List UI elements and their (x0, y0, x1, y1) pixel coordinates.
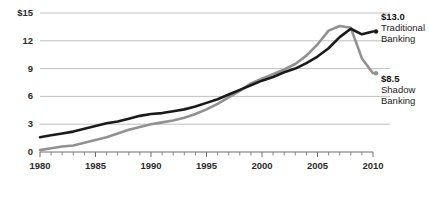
annotation-traditional-banking-label-line2: Banking (381, 34, 425, 45)
y-tick-label-0: 0 (0, 147, 33, 157)
y-tick-label-9: 9 (0, 64, 33, 74)
endpoint-marker (374, 71, 378, 75)
x-tick-label-1995: 1995 (185, 161, 229, 171)
endpoint-marker (374, 29, 378, 33)
x-tick-label-2000: 2000 (240, 161, 284, 171)
y-tick-label-3: 3 (0, 119, 33, 129)
y-tick-label-12: 12 (0, 36, 33, 46)
chart-container: $15129630 1980198519901995200020052010 $… (0, 0, 429, 202)
annotation-shadow-banking-label-line2: Banking (381, 96, 415, 107)
x-axis-ticks (40, 152, 373, 157)
chart-plot-area (0, 0, 429, 202)
x-tick-label-2010: 2010 (351, 161, 395, 171)
x-tick-label-1990: 1990 (129, 161, 173, 171)
line-traditional-banking (40, 29, 373, 137)
y-tick-label-15: $15 (0, 8, 33, 18)
annotation-traditional-banking: $13.0 Traditional Banking (381, 12, 425, 45)
x-tick-label-1980: 1980 (18, 161, 62, 171)
line-shadow-banking (40, 26, 373, 150)
x-tick-label-2005: 2005 (296, 161, 340, 171)
y-tick-label-6: 6 (0, 91, 33, 101)
series-traditional-banking-line (40, 29, 373, 137)
gridlines (40, 13, 390, 124)
annotation-shadow-banking: $8.5 Shadow Banking (381, 74, 415, 107)
x-tick-label-1985: 1985 (74, 161, 118, 171)
series-shadow-banking-line (40, 26, 373, 150)
